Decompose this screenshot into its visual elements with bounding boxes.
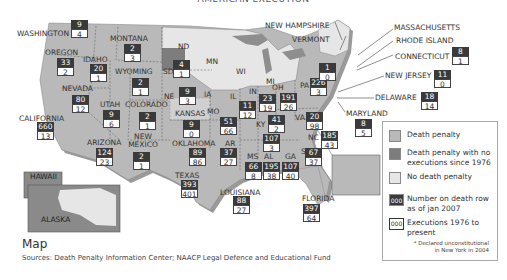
executions-count: 3 (263, 143, 280, 152)
label-wi: WI (236, 68, 246, 76)
death-row-count: 107 (263, 134, 280, 143)
badge-ar: 3727 (220, 148, 237, 166)
swatch-death-row: 000 (389, 194, 404, 206)
badge-washington: 94 (71, 20, 88, 38)
death-row-count: 37 (220, 148, 237, 157)
executions-count: 2 (268, 124, 285, 133)
badge-va: 2098 (306, 112, 323, 130)
death-row-count: 2 (133, 152, 150, 161)
death-row-count: 1 (319, 63, 336, 72)
badge-ne: 93 (179, 87, 196, 105)
badge-florida: 39764 (303, 204, 320, 222)
badge-al: 19538 (263, 162, 280, 180)
legend-label: Death penalty (407, 130, 499, 140)
label-ne: NE (164, 93, 174, 101)
executions-count: 1 (132, 87, 149, 96)
badge-connecticut: 81 (452, 47, 469, 65)
label-wyoming: WYOMING (115, 68, 153, 76)
executions-count: 19 (259, 103, 276, 112)
label-mn: MN (206, 58, 218, 66)
label-vermont: VERMONT (292, 36, 330, 44)
death-row-count: 107 (282, 162, 299, 171)
death-row-count: 11 (434, 70, 451, 79)
badge-utah: 96 (103, 110, 120, 128)
executions-count: 23 (96, 157, 113, 166)
badge-sc: 6737 (305, 148, 322, 166)
executions-count: 14 (421, 101, 438, 110)
death-row-count: 67 (305, 148, 322, 157)
badge-nc: 18543 (321, 131, 338, 149)
label-maryland: MARYLAND (346, 110, 388, 118)
badge-idaho: 201 (90, 64, 107, 82)
badge-ga: 10740 (282, 162, 299, 180)
death-row-count: 51 (220, 117, 237, 126)
legend-label: Death penalty with no executions since 1… (407, 148, 499, 167)
badge-oregon: 332 (57, 58, 74, 76)
badge-delaware: 1814 (421, 92, 438, 110)
death-row-count: 88 (233, 196, 250, 205)
executions-count: 1 (173, 69, 190, 78)
label-nd: ND (178, 43, 189, 51)
executions-count: 3 (179, 96, 196, 105)
death-row-count: 124 (96, 148, 113, 157)
badge-new-jersey: 110 (434, 70, 451, 88)
label-delaware: DELAWARE (375, 94, 417, 102)
map-heading: Map (22, 237, 47, 251)
executions-count: 27 (233, 205, 250, 214)
death-row-count: 11 (239, 101, 256, 110)
label-idaho: IDAHO (83, 56, 108, 64)
executions-count: 12 (239, 110, 256, 119)
death-row-count: 2 (132, 78, 149, 87)
death-row-count: 185 (321, 131, 338, 140)
label-ky: KY (256, 121, 265, 129)
label-colorado: COLORADO (125, 101, 168, 109)
swatch-death-penalty (389, 130, 401, 142)
badge-il: 1112 (239, 101, 256, 119)
death-row-count: 20 (306, 112, 323, 121)
executions-count: 1 (452, 56, 469, 65)
death-row-count: 397 (303, 204, 320, 213)
executions-count: 40 (282, 171, 299, 180)
death-row-count: 9 (179, 87, 196, 96)
executions-count: 26 (280, 102, 297, 111)
executions-count: 27 (220, 157, 237, 166)
label-new-hampshire: NEW HAMPSHIRE (265, 22, 329, 30)
swatch-executions: 000 (389, 218, 404, 230)
executions-count: 0 (434, 79, 451, 88)
label-va: VA (295, 114, 305, 122)
legend-label: Number on death row as of jan 2007 (407, 194, 499, 213)
executions-count: 13 (37, 131, 54, 140)
label-sd: SD (163, 68, 174, 76)
label-oregon: OREGON (45, 49, 78, 57)
death-row-count: 9 (103, 110, 120, 119)
executions-count: 38 (263, 171, 280, 180)
label-utah: UTAH (100, 101, 120, 109)
badge-mo: 5166 (220, 117, 237, 135)
badge-new-mexico: 21 (133, 152, 150, 170)
badge-arizona: 12423 (96, 148, 113, 166)
badge-nevada: 8012 (72, 95, 89, 113)
badge-kansas: 90 (183, 120, 200, 138)
label-ar: AR (225, 140, 235, 148)
badge-ky: 412 (268, 115, 285, 133)
death-row-count: 9 (183, 120, 200, 129)
badge-montana: 23 (124, 44, 141, 62)
death-row-count: 66 (245, 162, 262, 171)
executions-count: 401 (181, 189, 198, 198)
executions-count: 6 (103, 119, 120, 128)
executions-count: 86 (189, 157, 206, 166)
death-row-count: 33 (57, 58, 74, 67)
label-pa: PA (300, 82, 309, 90)
label-ga: GA (285, 153, 296, 161)
label-oklahoma: OKLAHOMA (172, 140, 215, 148)
label-florida: FLORIDA (302, 195, 334, 203)
executions-count: 43 (321, 140, 338, 149)
label-arizona: ARIZONA (87, 139, 121, 147)
badge-in: 2319 (259, 94, 276, 112)
death-row-count: 4 (173, 60, 190, 69)
badge-california: 66013 (37, 122, 54, 140)
badge-sd: 41 (173, 60, 190, 78)
death-row-count: 20 (90, 64, 107, 73)
death-row-count: 8 (355, 119, 372, 128)
legend-label: Executions 1976 to present (407, 218, 499, 237)
